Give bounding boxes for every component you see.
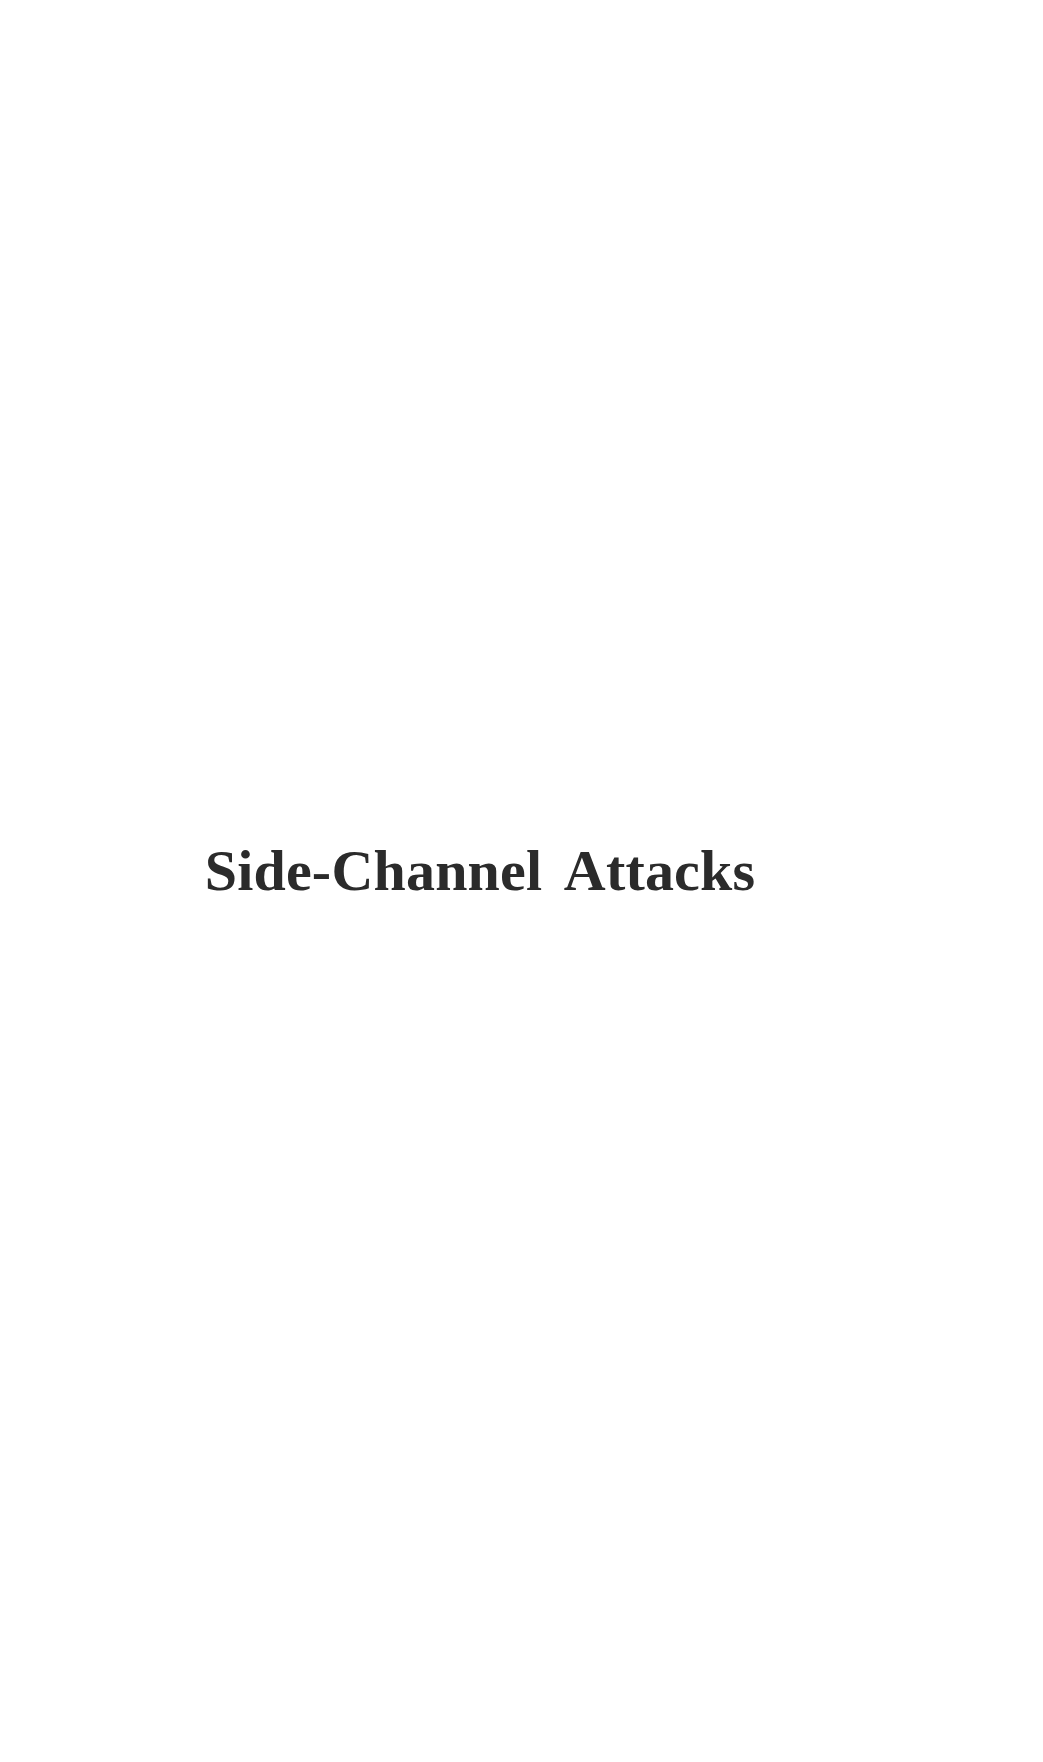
page-title: Side-Channel Attacks [205, 840, 756, 902]
part-title-block: Side-Channel Attacks [0, 840, 960, 902]
document-page: Side-Channel Attacks [0, 0, 1043, 1762]
